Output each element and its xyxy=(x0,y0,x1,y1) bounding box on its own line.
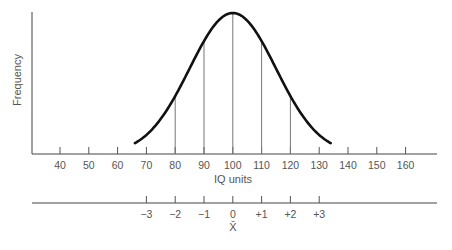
sd-tick-label: 0 xyxy=(230,208,236,220)
x-tick-label: 110 xyxy=(253,159,270,171)
guide-lines xyxy=(175,13,290,154)
y-axis-label: Frequency xyxy=(11,54,23,106)
sd-tick-label: −2 xyxy=(169,208,181,220)
sd-tick-label: −3 xyxy=(140,208,152,220)
x-tick-label: 40 xyxy=(54,159,66,171)
sd-tick-labels: −3−2−10+1+2+3 xyxy=(140,208,325,220)
x-tick-label: 60 xyxy=(112,159,124,171)
x-tick-labels: 405060708090100110120130140150160 xyxy=(54,159,414,171)
sd-ticks xyxy=(146,196,319,203)
x-tick-label: 120 xyxy=(282,159,300,171)
x-tick-label: 130 xyxy=(310,159,328,171)
x-tick-label: 140 xyxy=(339,159,357,171)
mean-symbol-label: X̄ xyxy=(229,221,237,233)
x-tick-label: 150 xyxy=(368,159,386,171)
x-tick-label: 100 xyxy=(224,159,242,171)
sd-tick-label: +1 xyxy=(256,208,268,220)
iq-distribution-chart: 405060708090100110120130140150160 Freque… xyxy=(0,0,452,250)
x-tick-label: 80 xyxy=(169,159,181,171)
upper-plot: 405060708090100110120130140150160 Freque… xyxy=(11,12,437,185)
x-axis-label: IQ units xyxy=(214,173,252,185)
sd-tick-label: −1 xyxy=(198,208,210,220)
x-tick-label: 70 xyxy=(141,159,153,171)
sd-tick-label: +3 xyxy=(313,208,325,220)
x-tick-label: 90 xyxy=(198,159,210,171)
x-tick-label: 50 xyxy=(83,159,95,171)
sd-tick-label: +2 xyxy=(284,208,296,220)
standard-deviation-axis: −3−2−10+1+2+3 X̄ xyxy=(32,196,437,233)
x-tick-label: 160 xyxy=(397,159,415,171)
